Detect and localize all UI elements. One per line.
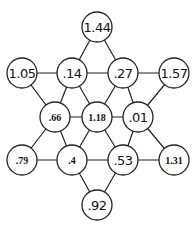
graph-node: .14 xyxy=(57,58,87,88)
graph-node: 1.18 xyxy=(82,102,112,132)
graph-node: 1.05 xyxy=(7,58,37,88)
graph-node: .4 xyxy=(57,145,87,175)
node-label: .27 xyxy=(113,66,132,81)
graph-node: .92 xyxy=(82,190,112,220)
node-label: .92 xyxy=(87,198,106,213)
graph-node: 1.44 xyxy=(82,12,112,42)
node-label: .01 xyxy=(128,110,147,125)
graph-node: .79 xyxy=(7,145,37,175)
node-label: 1.18 xyxy=(88,112,106,123)
graph-node: 1.31 xyxy=(159,145,189,175)
graph-node: .27 xyxy=(108,58,138,88)
node-label: .66 xyxy=(49,112,62,123)
node-label: 1.31 xyxy=(165,155,183,166)
node-label: .14 xyxy=(62,66,81,81)
node-label: .53 xyxy=(113,153,132,168)
node-label: 1.44 xyxy=(84,20,111,35)
node-label: .79 xyxy=(16,155,29,166)
node-label: 1.05 xyxy=(9,66,36,81)
graph-node: 1.57 xyxy=(159,58,189,88)
graph-node: .01 xyxy=(123,102,153,132)
node-label: 1.57 xyxy=(161,66,188,81)
nodes-layer: 1.441.05.14.271.57.661.18.01.79.4.531.31… xyxy=(7,12,189,220)
graph-node: .66 xyxy=(40,102,70,132)
node-label: .4 xyxy=(68,155,76,166)
graph-node: .53 xyxy=(108,145,138,175)
hexagram-number-graph: 1.441.05.14.271.57.661.18.01.79.4.531.31… xyxy=(0,0,194,225)
